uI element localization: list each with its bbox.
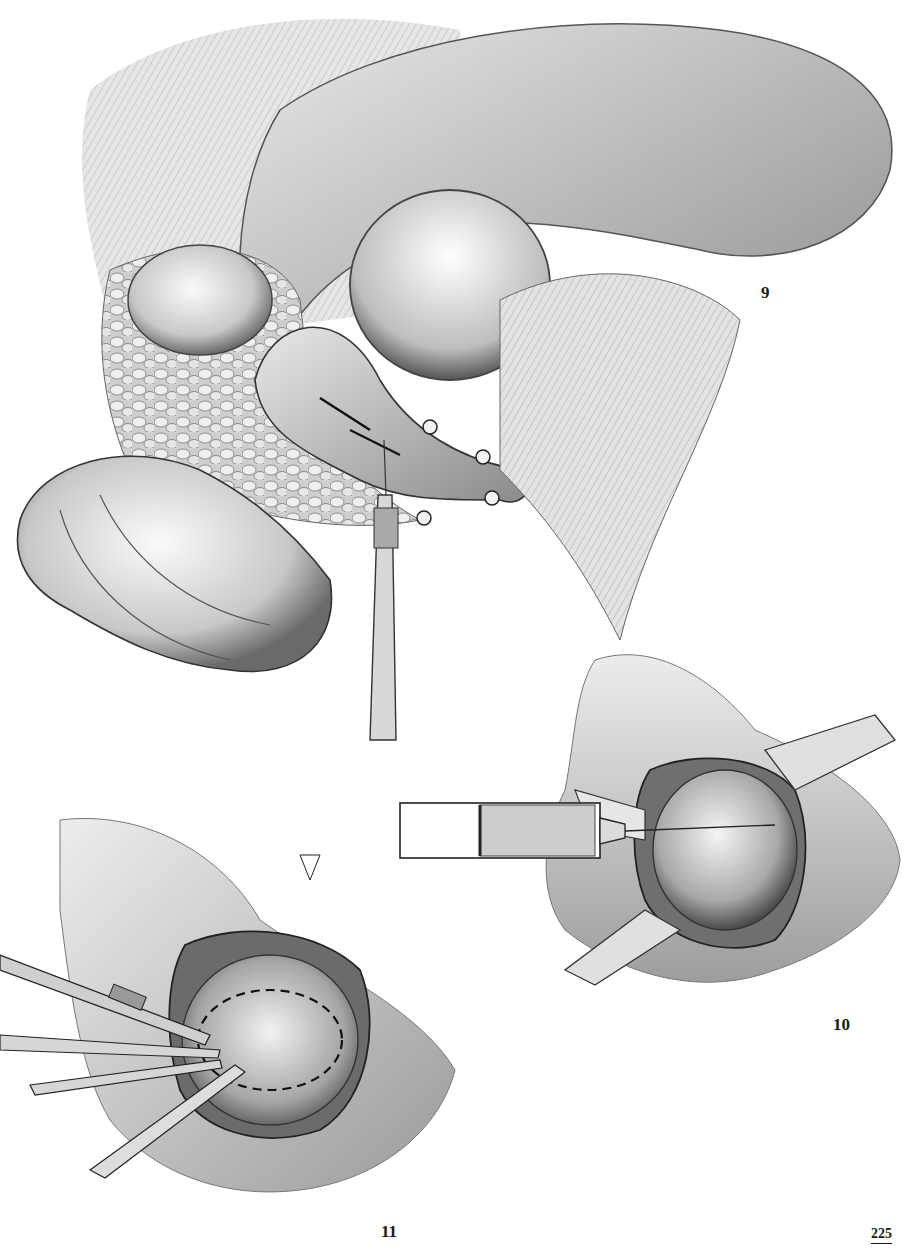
figure-10-label: 10: [833, 1015, 850, 1035]
figure-9-label: 9: [761, 283, 770, 303]
page-number: 225: [871, 1226, 892, 1244]
figure-11-illustration: 11: [0, 810, 470, 1258]
figure-11-label: 11: [381, 1222, 397, 1242]
figure-11-drawing: [0, 810, 470, 1210]
figure-10-illustration: 10: [395, 640, 912, 1010]
figure-9-drawing: [0, 0, 912, 745]
figure-10-drawing: [395, 640, 912, 1010]
figure-9-illustration: 9: [0, 0, 912, 745]
